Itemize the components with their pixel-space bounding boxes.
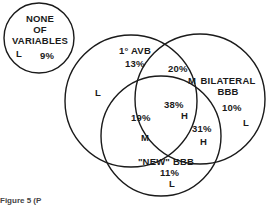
new-risk: L <box>169 179 175 189</box>
new-percent: 11% <box>160 168 179 178</box>
triple-risk: H <box>181 111 188 121</box>
avb-new-risk: M <box>141 133 149 143</box>
none-label-line2: OF <box>20 25 60 35</box>
avb-risk: L <box>95 88 101 98</box>
none-label-line1: NONE <box>20 14 60 24</box>
triple-percent: 38% <box>164 100 184 110</box>
avb-new-percent: 19% <box>131 113 151 123</box>
none-risk: L <box>16 49 22 59</box>
bilateral-label-line2: BBB <box>198 87 258 97</box>
none-percent: 9% <box>40 51 54 61</box>
none-label-line3: VARIABLES <box>8 36 72 46</box>
bilateral-label-line1: BILATERAL <box>198 76 258 86</box>
avb-percent: 13% <box>125 59 145 69</box>
bilateral-percent: 10% <box>222 103 242 113</box>
bilateral-new-percent: 31% <box>192 124 212 134</box>
avb-label: 1° AVB <box>115 46 155 56</box>
bilateral-risk: L <box>243 118 249 128</box>
figure-caption: Figure 5 (P <box>0 196 41 205</box>
bilateral-new-risk: H <box>200 137 207 147</box>
avb-bilateral-percent: 20% <box>168 64 188 74</box>
new-label: "NEW" BBB <box>136 157 196 167</box>
avb-bilateral-risk: M <box>188 76 196 86</box>
